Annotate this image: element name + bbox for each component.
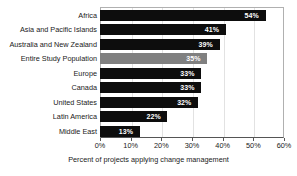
x-tick-label: 10%	[116, 141, 146, 150]
bar-series: 54%41%39%35%33%33%32%22%13%	[100, 7, 284, 137]
x-axis-ticks: 0%10%20%30%40%50%60%	[100, 138, 284, 150]
bar-value-label: 54%	[245, 10, 259, 21]
bar-row: 39%	[100, 39, 284, 50]
bar	[100, 10, 266, 21]
x-tick-label: 50%	[238, 141, 268, 150]
bar-value-label: 39%	[199, 39, 213, 50]
category-axis-labels: AfricaAsia and Pacific IslandsAustralia …	[0, 7, 97, 137]
bar-value-label: 13%	[119, 126, 133, 137]
bar-row: 54%	[100, 10, 284, 21]
bar-row: 13%	[100, 126, 284, 137]
bar-row: 35%	[100, 53, 284, 64]
bar-row: 33%	[100, 68, 284, 79]
x-axis-title: Percent of projects applying change mana…	[0, 155, 297, 164]
bar-row: 22%	[100, 111, 284, 122]
bar-value-label: 41%	[205, 24, 219, 35]
x-tick-label: 60%	[269, 141, 297, 150]
x-tick-label: 20%	[146, 141, 176, 150]
bar-chart: AfricaAsia and Pacific IslandsAustralia …	[0, 0, 297, 176]
category-label: Entire Study Population	[0, 53, 97, 64]
bar-row: 33%	[100, 82, 284, 93]
category-label: Latin America	[0, 111, 97, 122]
bar-row: 32%	[100, 97, 284, 108]
category-label: Canada	[0, 82, 97, 93]
x-tick-label: 30%	[177, 141, 207, 150]
bar-row: 41%	[100, 24, 284, 35]
bar-value-label: 22%	[146, 111, 160, 122]
bar-value-label: 32%	[177, 97, 191, 108]
bar-value-label: 33%	[180, 68, 194, 79]
bar-value-label: 33%	[180, 82, 194, 93]
category-label: Middle East	[0, 126, 97, 137]
category-label: Europe	[0, 68, 97, 79]
x-tick-label: 0%	[85, 141, 115, 150]
x-tick-label: 40%	[208, 141, 238, 150]
bar-value-label: 35%	[186, 53, 200, 64]
category-label: Africa	[0, 10, 97, 21]
category-label: Australia and New Zealand	[0, 39, 97, 50]
category-label: Asia and Pacific Islands	[0, 24, 97, 35]
category-label: United States	[0, 97, 97, 108]
